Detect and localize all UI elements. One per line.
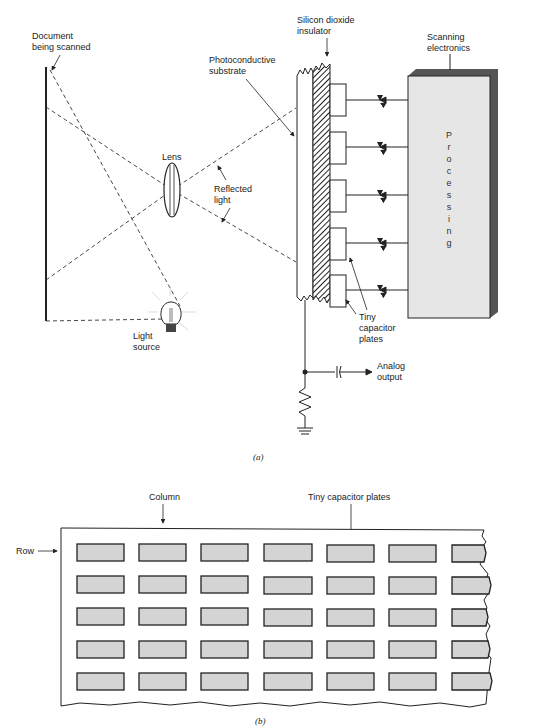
document-label: Documentbeing scanned: [32, 31, 91, 52]
plate-row-4: [77, 641, 490, 658]
svg-text:c: c: [447, 166, 452, 176]
junction-dot: [303, 370, 308, 375]
photoconductive-label: Photoconductivesubstrate: [209, 55, 276, 76]
scanner-diagram: Documentbeing scanned Lens Reflectedligh…: [0, 0, 534, 728]
svg-text:i: i: [448, 214, 450, 224]
svg-text:e: e: [446, 178, 451, 188]
svg-text:s: s: [447, 190, 452, 200]
lens-icon: [164, 163, 180, 217]
column-label: Column: [149, 492, 180, 502]
silicon-dioxide-insulator: [313, 63, 330, 303]
scanning-electronics-label: Scanningelectronics: [427, 32, 471, 53]
svg-text:o: o: [446, 154, 451, 164]
processing-box: P r o c e s s i n g: [408, 69, 498, 318]
svg-text:g: g: [446, 238, 451, 248]
plate-row-1: [77, 544, 486, 562]
capacitor-plates: [330, 84, 408, 307]
tiny-plates-b-label: Tiny capacitor plates: [308, 492, 391, 502]
silicon-label: Silicon dioxideinsulator: [297, 15, 355, 36]
svg-text:r: r: [448, 142, 451, 152]
tiny-plates-label: Tinycapacitorplates: [359, 312, 396, 344]
lens-label: Lens: [162, 152, 182, 162]
svg-text:n: n: [446, 226, 451, 236]
svg-text:s: s: [447, 202, 452, 212]
light-source-label: Lightsource: [133, 331, 160, 352]
figure-a: Documentbeing scanned Lens Reflectedligh…: [32, 15, 498, 462]
row-label: Row: [16, 546, 35, 556]
photoconductive-substrate: [297, 68, 313, 301]
caption-b: (b): [255, 716, 266, 726]
caption-a: (a): [253, 452, 264, 462]
plate-row-2: [77, 576, 491, 594]
figure-b: Column Tiny capacitor plates Row (b): [16, 492, 492, 726]
plate-row-5: [77, 673, 492, 690]
plate-row-3: [77, 608, 488, 626]
analog-output-label: Analogoutput: [377, 361, 405, 382]
reflected-light-label: Reflectedlight: [214, 184, 252, 205]
light-bulb-icon: [148, 286, 196, 332]
svg-text:P: P: [446, 130, 452, 140]
